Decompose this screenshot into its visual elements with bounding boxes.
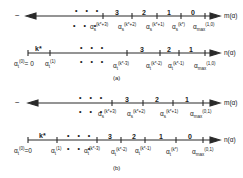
tick-label: αt(0)=0: [14, 147, 32, 156]
panel-caption: (b): [113, 165, 120, 171]
segment-label: 3: [108, 133, 112, 140]
tick-label: αt(k*-2): [111, 148, 127, 157]
tick-label: αt(k*-1): [135, 147, 151, 156]
segment-label: 2: [132, 133, 136, 140]
tick-label: αs(k*+1): [160, 110, 178, 119]
segment-label: 0: [191, 9, 195, 16]
segment-label: 0: [188, 133, 192, 140]
segment-label-k-star: k*: [35, 45, 42, 52]
ellipsis-above: • • •: [67, 132, 93, 139]
tick-label: αt(k*-3): [84, 147, 100, 156]
tick-label: αmax(0,1): [192, 148, 214, 157]
tick-label: αt(k*-2): [146, 62, 162, 71]
tick-label: αs(k*): [172, 23, 185, 32]
axis-label-n: n(α): [224, 50, 236, 57]
segment-label: 2: [142, 9, 146, 16]
segment-label: 1: [185, 96, 189, 103]
left-arrow-icon: [28, 100, 38, 106]
right-arrow-icon: [210, 137, 220, 143]
tick-label: αmax(0,1): [190, 110, 212, 119]
tick-label: αt(k*-1): [168, 62, 184, 71]
tick-label: αs(k*+2): [127, 110, 145, 119]
right-arrow-icon: [210, 50, 220, 56]
axis-label-n: n(α): [224, 137, 236, 144]
segment-label: 1: [189, 46, 193, 53]
panel-caption: (a): [113, 75, 120, 81]
segment-label: 3: [125, 96, 129, 103]
right-arrow-icon: [210, 13, 220, 19]
axis-label-m: m(α): [224, 100, 238, 107]
tick-label: αs(k*+2): [118, 23, 136, 32]
minus-sign: −: [15, 99, 20, 107]
ellipsis-above: • • •: [75, 7, 101, 14]
tick-label: αt(k*): [166, 148, 178, 157]
ellipsis-below: • • •: [80, 58, 106, 65]
segment-label-k-star: k*: [39, 132, 46, 139]
segment-label: 3: [115, 9, 119, 16]
segment-label: 2: [155, 96, 159, 103]
segment-label: 2: [167, 46, 171, 53]
minus-sign: −: [15, 12, 20, 20]
left-arrow-icon: [26, 13, 36, 19]
tick-label: αmax(1,0): [193, 23, 215, 32]
tick-label: αt(0)= 0: [14, 60, 34, 69]
segment-label: 3: [140, 46, 144, 53]
tick-label: αt(1): [51, 147, 62, 156]
right-arrow-icon: [210, 100, 220, 106]
ellipsis-above: • • •: [80, 44, 106, 51]
axis-label-m: m(α): [224, 13, 238, 20]
tick-label: αs(k*+3): [98, 110, 116, 119]
tick-label: αt(1): [45, 60, 56, 69]
tick-label: αs(k*+3): [90, 23, 108, 32]
tick-label: αmax(1,0): [194, 62, 216, 71]
tick-label: αs(k*+1): [146, 23, 164, 32]
segment-label: 1: [159, 133, 163, 140]
ellipsis-above: • • •: [79, 94, 105, 101]
tick-label: αt(k*-3): [113, 62, 129, 71]
segment-label: 1: [167, 9, 171, 16]
